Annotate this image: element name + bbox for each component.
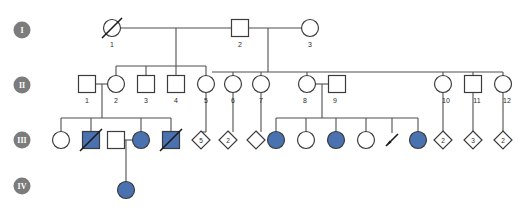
person-circle-female[interactable] bbox=[435, 76, 452, 93]
generation-badge-label: II bbox=[19, 81, 25, 90]
sibling-count-label: 3 bbox=[471, 137, 475, 144]
person-circle-female[interactable] bbox=[302, 20, 319, 37]
person-id-label: 7 bbox=[259, 97, 263, 104]
person-square-male[interactable] bbox=[108, 132, 125, 149]
person-circle-female[interactable] bbox=[495, 76, 512, 93]
individual-II-10[interactable]: 10 bbox=[435, 76, 452, 105]
sibship-count-diamond-1[interactable]: 5 bbox=[192, 131, 210, 149]
individual-II-11[interactable]: 11 bbox=[465, 76, 482, 105]
person-circle-female[interactable] bbox=[358, 132, 375, 149]
person-circle-female-affected[interactable] bbox=[410, 132, 427, 149]
generation-badge-label: III bbox=[17, 136, 26, 145]
individual-II-4[interactable]: 4 bbox=[168, 76, 185, 105]
sibling-count-label: 2 bbox=[226, 137, 230, 144]
sibship-count-diamond-4[interactable]: 2 bbox=[434, 131, 452, 149]
person-id-label: 5 bbox=[204, 97, 208, 104]
person-id-label: 4 bbox=[174, 97, 178, 104]
sibling-count-label: 5 bbox=[199, 137, 203, 144]
person-circle-female[interactable] bbox=[108, 76, 125, 93]
person-id-label: 1 bbox=[110, 41, 114, 48]
pregnancy-loss-III-14[interactable] bbox=[386, 134, 398, 146]
individual-III-12[interactable] bbox=[328, 132, 345, 149]
person-id-label: 10 bbox=[442, 97, 450, 104]
person-circle-female-affected[interactable] bbox=[328, 132, 345, 149]
person-id-label: 12 bbox=[503, 97, 511, 104]
person-circle-female[interactable] bbox=[298, 132, 315, 149]
individual-III-3[interactable] bbox=[108, 132, 125, 149]
individual-III-11[interactable] bbox=[298, 132, 315, 149]
individual-III-4[interactable] bbox=[133, 132, 150, 149]
sibling-count-label: 2 bbox=[441, 137, 445, 144]
individual-I-1[interactable]: 1 bbox=[102, 18, 122, 48]
individual-II-2[interactable]: 2 bbox=[108, 76, 125, 105]
person-circle-female[interactable] bbox=[299, 76, 316, 93]
sibship-count-diamond-2[interactable]: 2 bbox=[219, 131, 237, 149]
person-id-label: 3 bbox=[144, 97, 148, 104]
person-square-male[interactable] bbox=[168, 76, 185, 93]
individual-II-6[interactable]: 6 bbox=[225, 76, 242, 105]
generation-badge-III: III bbox=[14, 132, 31, 149]
individual-II-8[interactable]: 8 bbox=[299, 76, 316, 105]
individual-II-9[interactable]: 9 bbox=[329, 76, 346, 105]
person-id-label: 3 bbox=[308, 41, 312, 48]
pedigree-canvas: I II III IV bbox=[0, 0, 521, 219]
individual-II-12[interactable]: 12 bbox=[495, 76, 512, 105]
sibship-count-diamond-3[interactable] bbox=[247, 131, 265, 149]
person-circle-female[interactable] bbox=[225, 76, 242, 93]
sibship-count-diamond-6[interactable]: 2 bbox=[494, 131, 512, 149]
person-id-label: 11 bbox=[473, 97, 480, 104]
person-id-label: 1 bbox=[85, 97, 89, 104]
person-id-label: 9 bbox=[333, 97, 337, 104]
individual-I-2[interactable]: 2 bbox=[232, 20, 249, 49]
person-square-male[interactable] bbox=[232, 20, 249, 37]
person-circle-female[interactable] bbox=[198, 76, 215, 93]
individual-II-3[interactable]: 3 bbox=[138, 76, 155, 105]
individual-III-1[interactable] bbox=[53, 132, 70, 149]
person-square-male[interactable] bbox=[329, 76, 346, 93]
person-square-male[interactable] bbox=[138, 76, 155, 93]
generation-badge-label: IV bbox=[18, 182, 27, 191]
individual-III-2[interactable] bbox=[80, 129, 102, 151]
sibling-count-label: 2 bbox=[501, 137, 505, 144]
generation-badge-I: I bbox=[14, 22, 31, 39]
person-circle-female-affected[interactable] bbox=[268, 132, 285, 149]
person-id-label: 2 bbox=[114, 97, 118, 104]
individual-I-3[interactable]: 3 bbox=[302, 20, 319, 49]
pedigree-connector-lines bbox=[61, 28, 503, 183]
person-id-label: 8 bbox=[303, 97, 307, 104]
individual-III-15[interactable] bbox=[410, 132, 427, 149]
person-circle-female[interactable] bbox=[53, 132, 70, 149]
person-id-label: 2 bbox=[238, 41, 242, 48]
person-id-label: 6 bbox=[231, 97, 235, 104]
person-circle-female[interactable] bbox=[253, 76, 270, 93]
person-circle-female-affected[interactable] bbox=[118, 182, 135, 199]
sibship-count-diamond-5[interactable]: 3 bbox=[464, 131, 482, 149]
pedigree-chart: I II III IV bbox=[0, 0, 521, 219]
individual-II-1[interactable]: 1 bbox=[79, 76, 96, 105]
individual-III-5[interactable] bbox=[160, 129, 182, 151]
person-circle-female-affected[interactable] bbox=[133, 132, 150, 149]
individual-IV-1[interactable] bbox=[118, 182, 135, 199]
individual-III-10[interactable] bbox=[268, 132, 285, 149]
individual-II-7[interactable]: 7 bbox=[253, 76, 270, 105]
person-square-male[interactable] bbox=[465, 76, 482, 93]
generation-badge-IV: IV bbox=[14, 178, 31, 195]
individual-II-5[interactable]: 5 bbox=[198, 76, 215, 105]
individual-III-13[interactable] bbox=[358, 132, 375, 149]
generation-badges: I II III IV bbox=[14, 22, 31, 195]
diamond-shape[interactable] bbox=[247, 131, 265, 149]
generation-badge-label: I bbox=[20, 26, 23, 35]
person-square-male[interactable] bbox=[79, 76, 96, 93]
generation-badge-II: II bbox=[14, 77, 31, 94]
